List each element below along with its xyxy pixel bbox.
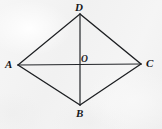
side-BA — [18, 65, 80, 105]
side-AD — [18, 14, 80, 65]
side-CB — [80, 64, 141, 105]
vertex-label-B: B — [76, 108, 83, 119]
vertex-label-C: C — [146, 58, 153, 69]
geometry-figure: A D C B O — [0, 0, 162, 129]
side-DC — [80, 14, 141, 64]
vertex-label-A: A — [5, 59, 12, 70]
center-label-O: O — [81, 55, 88, 65]
vertex-label-D: D — [75, 2, 83, 13]
